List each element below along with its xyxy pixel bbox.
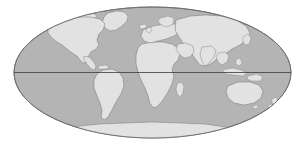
- world-map-svg: [0, 0, 305, 145]
- world-map-figure: [0, 0, 305, 145]
